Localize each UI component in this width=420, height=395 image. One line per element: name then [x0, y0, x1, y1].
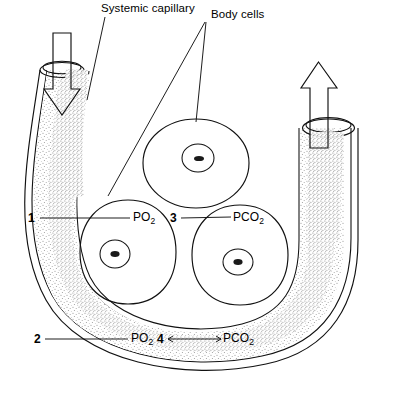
body-cell-top [143, 119, 249, 208]
gas-subscript: 2 [151, 216, 156, 226]
gas-subscript: 2 [149, 337, 154, 347]
label-body-cells: Body cells [211, 9, 264, 21]
gas-label-pco2-blood: PCO2 [223, 332, 254, 344]
leader-marker-3 [181, 217, 231, 218]
marker-1: 1 [28, 212, 35, 224]
vessel-group [25, 61, 358, 370]
gas-label-po2-cell: PO2 [133, 211, 155, 223]
marker-4: 4 [157, 333, 164, 345]
vessel-inner-wall-line-outer [77, 71, 299, 329]
gas-subscript: 2 [259, 216, 264, 226]
gas-symbol: PCO [223, 331, 249, 345]
leader-systemic-capillary [87, 17, 105, 100]
gas-symbol: PCO [233, 210, 259, 224]
marker-2: 2 [34, 333, 41, 345]
gas-symbol: PO [131, 331, 149, 345]
gas-exchange-diagram: Systemic capillary Body cells 1 2 3 4 PO… [0, 0, 420, 395]
nucleus-lower-right-cell [223, 249, 253, 275]
nucleus-lower-left-cell [100, 240, 130, 268]
gas-symbol: PO [133, 210, 151, 224]
label-systemic-capillary: Systemic capillary [101, 3, 195, 15]
gas-label-pco2-cell: PCO2 [233, 211, 264, 223]
marker-3: 3 [170, 212, 177, 224]
leader-body-cells-top [196, 22, 206, 122]
nucleus-top-cell [182, 144, 214, 172]
gas-subscript: 2 [249, 337, 254, 347]
gas-label-po2-blood: PO2 [131, 332, 153, 344]
diagram-canvas [0, 0, 420, 395]
body-cell-lower-left [80, 200, 176, 304]
